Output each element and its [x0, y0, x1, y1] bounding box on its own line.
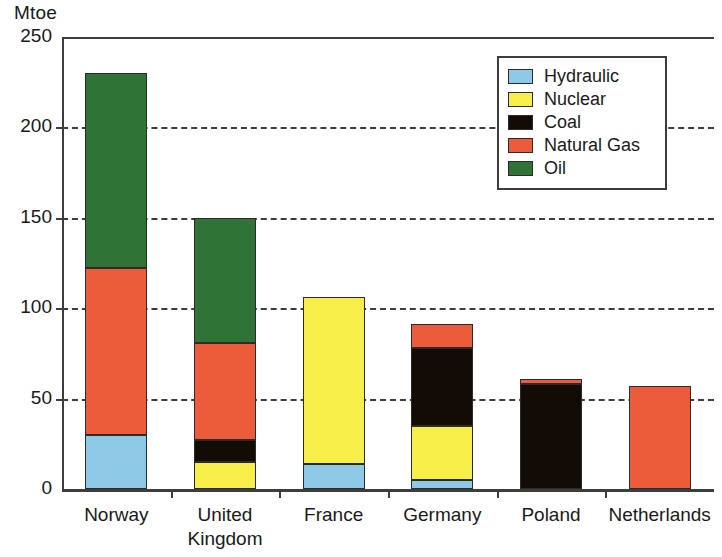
x-tick-mark [388, 489, 390, 498]
x-axis-label-line: Poland [521, 504, 580, 525]
x-axis-label-line: France [304, 504, 363, 525]
bar-stack [85, 37, 147, 489]
x-axis-label-line: Norway [84, 504, 148, 525]
x-tick-mark [171, 489, 173, 498]
legend-item: Hydraulic [508, 65, 656, 88]
x-axis-label: France [279, 503, 388, 527]
bar-segment [411, 348, 473, 426]
y-tick-label-200: 200 [0, 115, 52, 137]
bar-segment [629, 386, 691, 489]
bar-segment [85, 435, 147, 489]
y-axis-unit-label: Mtoe [14, 2, 57, 24]
x-tick-mark [279, 489, 281, 498]
bar-segment [303, 464, 365, 489]
bar-segment [411, 480, 473, 489]
bar-segment [194, 440, 256, 462]
x-axis-label: UnitedKingdom [171, 503, 280, 551]
y-tick-label-50: 50 [0, 387, 52, 409]
gridline-150 [62, 218, 714, 220]
bar-segment [194, 343, 256, 441]
y-tick-mark-150 [56, 218, 64, 220]
legend-label: Hydraulic [544, 66, 619, 87]
x-axis-label: Netherlands [605, 503, 714, 527]
bar-stack [194, 37, 256, 489]
bar-segment [303, 297, 365, 463]
stacked-bar-chart: Mtoe 050100150200250 NorwayUnitedKingdom… [0, 0, 722, 557]
bar-segment [411, 324, 473, 348]
legend-label: Natural Gas [544, 135, 640, 156]
x-axis-label: Poland [497, 503, 606, 527]
bar-stack [411, 37, 473, 489]
x-tick-mark [605, 489, 607, 498]
y-tick-label-0: 0 [0, 477, 52, 499]
y-tick-label-100: 100 [0, 296, 52, 318]
gridline-100 [62, 308, 714, 310]
legend-swatch-icon [508, 69, 533, 84]
x-axis-label: Germany [388, 503, 497, 527]
legend-swatch-icon [508, 161, 533, 176]
x-tick-mark [497, 489, 499, 498]
legend-item: Coal [508, 111, 656, 134]
legend-swatch-icon [508, 138, 533, 153]
x-axis-label: Norway [62, 503, 171, 527]
bar-segment [194, 462, 256, 489]
bar-segment [85, 268, 147, 434]
bar-segment [520, 379, 582, 384]
y-tick-mark-50 [56, 399, 64, 401]
legend-swatch-icon [508, 92, 533, 107]
bar-stack [303, 37, 365, 489]
legend-item: Oil [508, 157, 656, 180]
x-axis-label-line: United [198, 504, 253, 525]
y-tick-mark-200 [56, 127, 64, 129]
legend-item: Nuclear [508, 88, 656, 111]
gridline-50 [62, 399, 714, 401]
y-tick-label-250: 250 [0, 25, 52, 47]
legend-label: Nuclear [544, 89, 606, 110]
bar-segment [520, 384, 582, 489]
x-axis-label-line: Germany [403, 504, 481, 525]
legend-label: Coal [544, 112, 581, 133]
legend-label: Oil [544, 158, 566, 179]
x-axis-label-line: Netherlands [608, 504, 710, 525]
legend-item: Natural Gas [508, 134, 656, 157]
y-tick-mark-100 [56, 308, 64, 310]
legend-swatch-icon [508, 115, 533, 130]
legend: HydraulicNuclearCoalNatural GasOil [497, 56, 667, 190]
x-axis-label-line: Kingdom [171, 527, 280, 551]
y-tick-label-150: 150 [0, 206, 52, 228]
bar-segment [411, 426, 473, 480]
bar-segment [194, 218, 256, 343]
bar-segment [85, 73, 147, 268]
